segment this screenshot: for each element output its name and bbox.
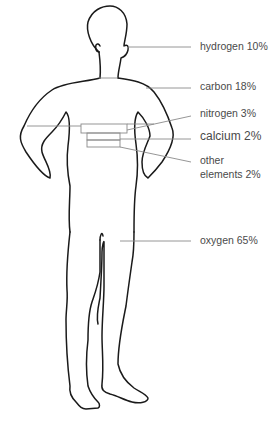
label-carbon: carbon 18% [200,80,256,93]
label-calcium: calcium 2% [200,130,261,143]
label-oxygen: oxygen 65% [200,234,258,247]
label-other-line1: other [200,154,224,167]
label-hydrogen: hydrogen 10% [200,40,268,53]
body-diagram-detail [0,0,275,424]
label-other-line2: elements 2% [200,168,261,181]
label-nitrogen: nitrogen 3% [200,107,256,120]
